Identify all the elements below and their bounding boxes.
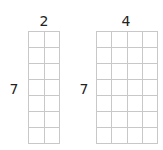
grid-cell: [45, 32, 61, 48]
grid-cell: [112, 80, 127, 96]
grid-cell: [29, 96, 45, 112]
grid-cell: [143, 96, 158, 112]
grid-cell: [112, 48, 127, 64]
grid-cell: [112, 128, 127, 144]
grid-cell: [128, 32, 143, 48]
grid-cell: [112, 96, 127, 112]
grid-cell: [97, 128, 112, 144]
grid-cell: [128, 96, 143, 112]
grid-cell: [45, 112, 61, 128]
grid-cell: [128, 64, 143, 80]
right-rows-label: 7: [78, 82, 90, 96]
right-columns-label: 4: [118, 14, 134, 28]
grid-cell: [112, 32, 127, 48]
grid-cell: [97, 32, 112, 48]
grid-cell: [143, 80, 158, 96]
grid-cell: [45, 48, 61, 64]
grid-cell: [29, 64, 45, 80]
grid-cell: [128, 48, 143, 64]
grid-cell: [29, 112, 45, 128]
grid-cell: [128, 128, 143, 144]
grid-cell: [29, 48, 45, 64]
grid-cell: [45, 96, 61, 112]
grid-cell: [143, 64, 158, 80]
grid-cell: [128, 112, 143, 128]
left-columns-label: 2: [36, 14, 52, 28]
grid-cell: [97, 112, 112, 128]
grid-cell: [97, 80, 112, 96]
grid-cell: [143, 112, 158, 128]
left-grid-2x7: [28, 31, 60, 144]
left-rows-label: 7: [8, 82, 20, 96]
grid-cell: [29, 32, 45, 48]
grid-cell: [143, 48, 158, 64]
grid-cell: [143, 32, 158, 48]
grid-cell: [97, 64, 112, 80]
grid-cell: [29, 128, 45, 144]
grid-cell: [128, 80, 143, 96]
grid-cell: [29, 80, 45, 96]
grid-cell: [143, 128, 158, 144]
grid-cell: [45, 64, 61, 80]
grid-cell: [45, 80, 61, 96]
right-grid-4x7: [96, 31, 158, 144]
grid-cell: [45, 128, 61, 144]
grid-cell: [97, 48, 112, 64]
grid-cell: [112, 112, 127, 128]
grid-cell: [97, 96, 112, 112]
grid-cell: [112, 64, 127, 80]
